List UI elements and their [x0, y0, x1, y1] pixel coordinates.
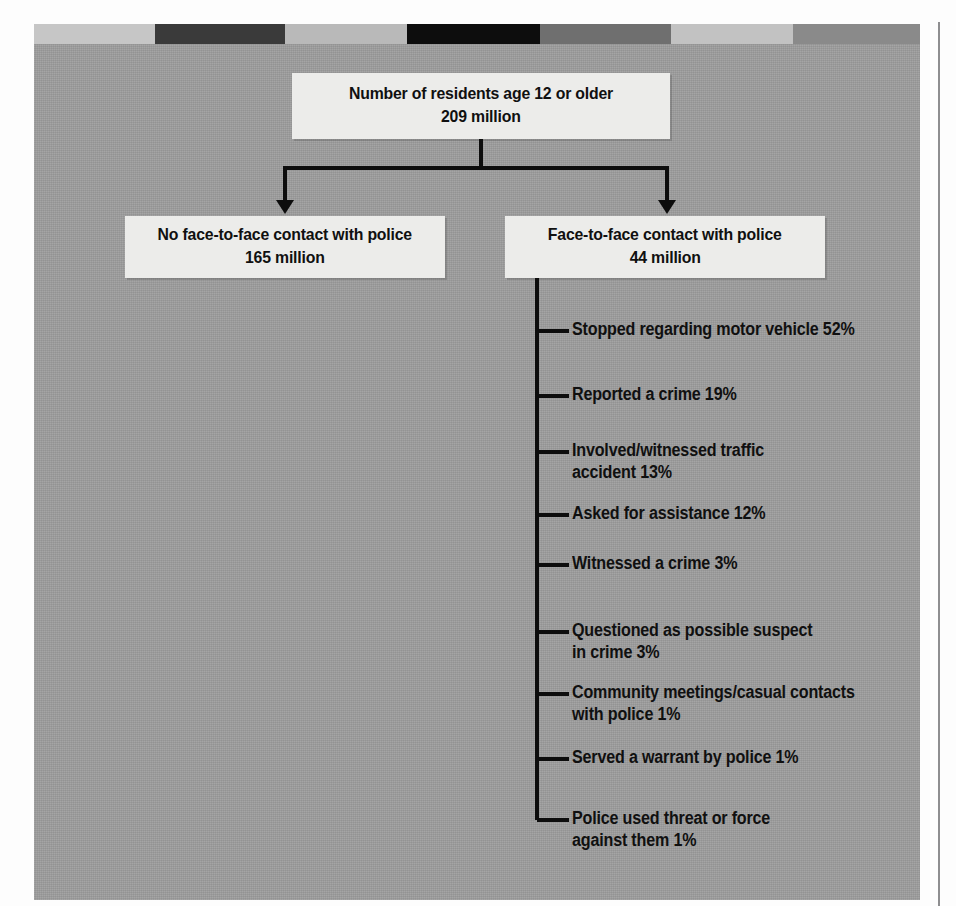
figure-root: Number of residents age 12 or older 209 …: [0, 0, 956, 906]
list-item-tick-4: [537, 563, 569, 567]
list-item-tick-8: [537, 818, 569, 822]
contact-reasons-list: Stopped regarding motor vehicle 52%Repor…: [0, 0, 956, 906]
list-item-label: Community meetings/casual contacts with …: [572, 681, 855, 726]
list-item-label: Involved/witnessed traffic accident 13%: [572, 439, 764, 484]
list-item-tick-1: [537, 394, 569, 398]
list-item-label: Police used threat or force against them…: [572, 807, 770, 852]
list-item-label: Asked for assistance 12%: [572, 502, 765, 524]
list-item-tick-3: [537, 513, 569, 517]
list-item-tick-7: [537, 757, 569, 761]
list-item-label: Served a warrant by police 1%: [572, 746, 798, 768]
list-item-tick-6: [537, 692, 569, 696]
list-item-tick-0: [537, 329, 569, 333]
list-item-label: Witnessed a crime 3%: [572, 552, 737, 574]
list-item-label: Questioned as possible suspect in crime …: [572, 619, 813, 664]
list-item-label: Stopped regarding motor vehicle 52%: [572, 318, 855, 340]
page-margin-rule: [938, 22, 940, 906]
list-item-label: Reported a crime 19%: [572, 383, 737, 405]
list-item-tick-2: [537, 450, 569, 454]
list-item-tick-5: [537, 630, 569, 634]
